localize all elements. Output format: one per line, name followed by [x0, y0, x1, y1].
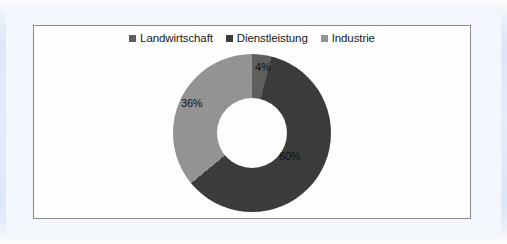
legend-label: Dienstleistung: [237, 33, 308, 45]
doughnut-hole: [217, 98, 287, 168]
legend-swatch-icon: [129, 35, 136, 42]
doughnut-chart: 4% 60% 36%: [173, 54, 331, 212]
legend-label: Landwirtschaft: [140, 33, 213, 45]
legend-label: Industrie: [332, 33, 375, 45]
legend-item-dienstleistung[interactable]: Dienstleistung: [226, 33, 308, 45]
legend-item-landwirtschaft[interactable]: Landwirtschaft: [129, 33, 213, 45]
slice-data-label: 60%: [279, 151, 300, 162]
legend-swatch-icon: [321, 35, 328, 42]
slice-data-label: 36%: [181, 98, 202, 109]
legend-item-industrie[interactable]: Industrie: [321, 33, 375, 45]
slice-data-label: 4%: [255, 62, 271, 73]
chart-legend: Landwirtschaft Dienstleistung Industrie: [34, 33, 470, 45]
screenshot-root: Landwirtschaft Dienstleistung Industrie …: [0, 0, 507, 244]
chart-card: Landwirtschaft Dienstleistung Industrie …: [33, 25, 471, 219]
legend-swatch-icon: [226, 35, 233, 42]
